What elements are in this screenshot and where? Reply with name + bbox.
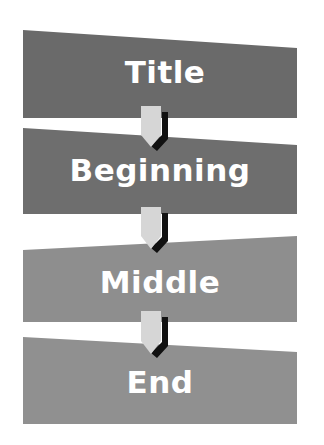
- step-label-title: Title: [90, 54, 240, 90]
- step-label-middle: Middle: [60, 262, 260, 302]
- step-label-end: End: [80, 362, 240, 402]
- step-label-beginning: Beginning: [40, 150, 280, 190]
